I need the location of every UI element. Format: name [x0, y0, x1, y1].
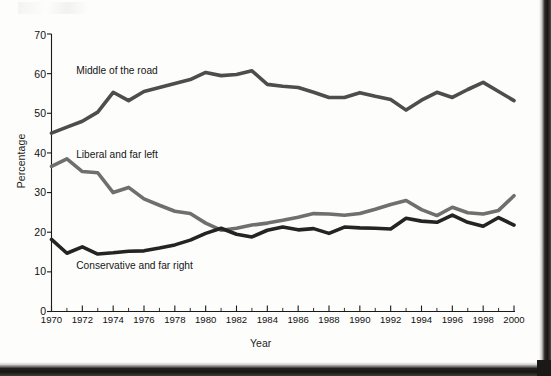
scan-edge-right [539, 0, 551, 362]
scan-edge-corner [537, 360, 551, 376]
figure-page: 70 60 50 40 30 20 10 0 Percentage 197019… [0, 0, 551, 376]
line-chart: 70 60 50 40 30 20 10 0 Percentage 197019… [0, 0, 551, 376]
x-tick-label: 2000 [494, 314, 534, 325]
series-label: Liberal and far left [76, 149, 158, 160]
data-series-group [52, 71, 515, 254]
x-axis-title: Year [250, 337, 271, 349]
series-label: Middle of the road [76, 65, 158, 76]
y-axis-major-ticks [47, 34, 52, 312]
scan-edge-bottom [0, 362, 551, 376]
series-label: Conservative and far right [76, 260, 193, 271]
series-line [52, 71, 515, 133]
